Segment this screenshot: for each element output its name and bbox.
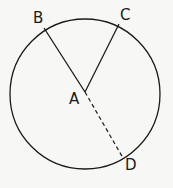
circle: [10, 19, 160, 169]
segment-ad-dashed: [85, 92, 123, 158]
label-c: C: [120, 6, 130, 24]
label-d: D: [125, 156, 137, 174]
circle-diagram: B C A D: [0, 0, 173, 188]
segment-ac: [85, 24, 119, 92]
segment-ab: [44, 28, 85, 92]
label-b: B: [33, 9, 43, 27]
label-a: A: [69, 90, 80, 108]
